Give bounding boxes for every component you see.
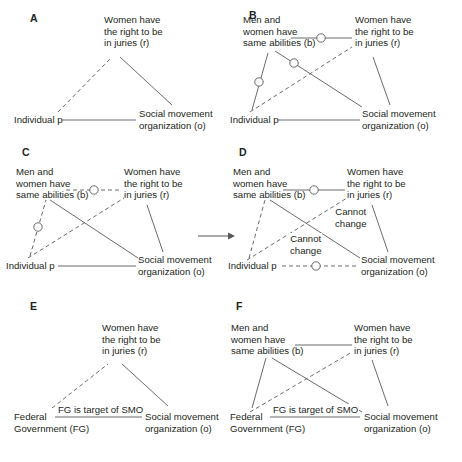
panel-letter-e: E — [30, 300, 37, 312]
arrow-head-icon — [228, 233, 235, 240]
edge-fg-b-solid — [252, 358, 266, 408]
node-label-b: Men and women have same abilities (b) — [16, 166, 89, 201]
node-line: Men and — [243, 14, 316, 26]
edge-marker-circle-b-r — [90, 186, 98, 194]
edge-r-o-solid — [147, 205, 163, 252]
node-label-o: Social movement organization (o) — [364, 411, 438, 434]
node-line: Men and — [16, 166, 89, 178]
node-line: Women have — [355, 14, 414, 26]
node-line: Women have — [347, 166, 406, 178]
node-label-p: Individual p — [230, 114, 279, 126]
edge-p-r-dashed — [58, 57, 112, 112]
node-line: in juries (r) — [354, 345, 413, 357]
node-line: the right to be — [355, 26, 414, 38]
node-line: Social movement — [364, 411, 438, 423]
node-line: Women have — [354, 322, 413, 334]
node-line: same abilities (b) — [233, 189, 306, 201]
node-line: organization (o) — [362, 120, 436, 132]
node-label-r: Women have the right to be in juries (r) — [124, 166, 183, 201]
node-line: organization (o) — [139, 120, 213, 132]
edge-r-o-solid — [122, 364, 168, 406]
edge-r-o-solid — [372, 360, 388, 406]
node-line: Women have — [102, 322, 161, 334]
node-line: Government (FG) — [14, 423, 89, 435]
node-line: organization (o) — [138, 266, 212, 278]
node-line: Individual p — [6, 260, 55, 272]
node-line: same abilities (b) — [243, 37, 316, 49]
node-line: in juries (r) — [104, 37, 163, 49]
node-line: the right to be — [124, 178, 183, 190]
node-line: the right to be — [347, 178, 406, 190]
node-label-o: Social movement organization (o) — [362, 108, 436, 131]
edge-label-fg-is-target-of-smo: FG is target of SMO — [272, 404, 359, 416]
node-label-o: Social movement organization (o) — [139, 108, 213, 131]
edge-r-o-solid — [372, 205, 388, 252]
edge-label-line: change — [335, 218, 366, 230]
node-line: the right to be — [104, 26, 163, 38]
node-line: Women have — [104, 14, 163, 26]
edge-label-line: change — [290, 245, 321, 257]
node-line: in juries (r) — [102, 345, 161, 357]
panel-letter-f: F — [236, 300, 243, 312]
node-label-p: Individual p — [228, 260, 277, 272]
node-line: in juries (r) — [124, 189, 183, 201]
node-line: Individual p — [228, 260, 277, 272]
edge-marker-circle-p-o — [312, 262, 320, 270]
edge-marker-circle-b-r — [310, 186, 318, 194]
edge-b-o-solid — [275, 51, 362, 107]
panel-letter-a: A — [30, 12, 38, 24]
transition-arrow-c-to-d — [198, 233, 235, 240]
node-label-o: Social movement organization (o) — [138, 254, 212, 277]
node-line: the right to be — [354, 334, 413, 346]
node-line: the right to be — [102, 334, 161, 346]
node-label-o: Social movement organization (o) — [145, 411, 219, 434]
edge-marker-circle-b-o — [290, 59, 298, 67]
node-label-r: Women have the right to be in juries (r) — [104, 14, 163, 49]
panel-letter-d: D — [239, 146, 247, 158]
edge-marker-circle-p-b — [255, 78, 263, 86]
node-label-r: Women have the right to be in juries (r) — [355, 14, 414, 49]
node-label-b: Men and women have same abilities (b) — [231, 322, 304, 357]
node-line: Social movement — [139, 108, 213, 120]
node-label-p: Individual p — [14, 114, 63, 126]
node-line: women have — [231, 334, 304, 346]
node-line: organization (o) — [364, 423, 438, 435]
node-line: Social movement — [362, 108, 436, 120]
node-label-r: Women have the right to be in juries (r) — [354, 322, 413, 357]
node-line: women have — [16, 178, 89, 190]
node-line: women have — [233, 178, 306, 190]
node-label-b: Men and women have same abilities (b) — [233, 166, 306, 201]
panel-letter-c: C — [22, 146, 30, 158]
node-line: organization (o) — [145, 423, 219, 435]
node-line: same abilities (b) — [16, 189, 89, 201]
figure-panels-container: A B C D E F Women have the right to be i… — [0, 0, 462, 462]
edge-r-o-solid — [373, 57, 390, 105]
edge-label-line: Cannot — [290, 233, 321, 245]
node-line: Women have — [124, 166, 183, 178]
node-label-o: Social movement organization (o) — [361, 254, 435, 277]
node-line: Social movement — [145, 411, 219, 423]
edge-marker-circle-b-r — [317, 34, 325, 42]
node-line: Social movement — [138, 254, 212, 266]
edge-b-o-solid — [50, 200, 138, 258]
node-line: Individual p — [14, 114, 63, 126]
edge-marker-circle-p-b — [34, 223, 42, 231]
edge-label-cannot-change-p-o: Cannot change — [289, 233, 322, 256]
node-line: Social movement — [361, 254, 435, 266]
node-line: organization (o) — [361, 266, 435, 278]
node-line: women have — [243, 26, 316, 38]
node-line: Men and — [233, 166, 306, 178]
edge-label-line: Cannot — [335, 206, 366, 218]
node-line: Individual p — [230, 114, 279, 126]
diagram-lines-layer — [0, 0, 462, 462]
node-line: same abilities (b) — [231, 345, 304, 357]
node-label-p: Individual p — [6, 260, 55, 272]
edge-label-fg-is-target-of-smo: FG is target of SMO — [57, 404, 144, 416]
node-line: Men and — [231, 322, 304, 334]
node-label-r: Women have the right to be in juries (r) — [102, 322, 161, 357]
edge-fg-r-dashed — [52, 364, 108, 408]
node-line: in juries (r) — [355, 37, 414, 49]
edge-r-o-solid — [120, 57, 172, 105]
node-line: Government (FG) — [230, 423, 305, 435]
node-label-r: Women have the right to be in juries (r) — [347, 166, 406, 201]
